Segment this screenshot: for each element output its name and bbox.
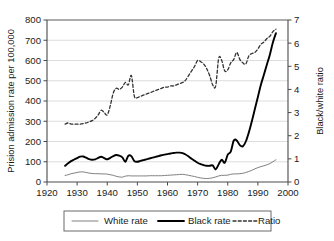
y-axis-right-tick-label: 2 (294, 130, 299, 141)
legend-label-black-rate: Black rate (188, 215, 231, 226)
chart-figure: 0100200300400500600700800 01234567 19201… (0, 0, 334, 241)
y-axis-left-tick-label: 700 (25, 35, 41, 46)
y-axis-left-tick-label: 500 (25, 75, 41, 86)
y-axis-left-tick-label: 100 (25, 156, 41, 167)
x-axis-tick-label: 1960 (157, 187, 178, 198)
y-axis-right-tick-label: 0 (294, 176, 299, 187)
x-axis-tick-label: 1940 (97, 187, 118, 198)
x-axis-tick-label: 1970 (187, 187, 208, 198)
x-axis-tick-label: 1950 (127, 187, 148, 198)
y-axis-right-tick-label: 5 (294, 61, 299, 72)
y-axis-left-tick-label: 800 (25, 14, 41, 25)
x-axis-tick-label: 1920 (36, 187, 57, 198)
legend-label-white-rate: White rate (104, 215, 148, 226)
y-axis-left-tick-label: 300 (25, 116, 41, 127)
y-axis-right-tick-label: 3 (294, 107, 299, 118)
x-axis-tick-label: 1980 (217, 187, 238, 198)
x-axis-tick-label: 1930 (66, 187, 87, 198)
y-axis-left-tick-label: 0 (36, 176, 41, 187)
y-axis-right-tick-label: 4 (294, 84, 300, 95)
legend-label-ratio: Ratio (258, 215, 280, 226)
prison-admission-rate-chart: 0100200300400500600700800 01234567 19201… (0, 0, 334, 241)
y-axis-left-tick-label: 400 (25, 95, 41, 106)
x-axis-tick-label: 1990 (247, 187, 268, 198)
y-axis-right-tick-label: 1 (294, 153, 299, 164)
y-axis-right-tick-label: 7 (294, 14, 299, 25)
chart-legend: White rateBlack rateRatio (64, 211, 280, 231)
y-axis-left-tick-label: 200 (25, 136, 41, 147)
x-axis-tick-label: 2000 (277, 187, 298, 198)
y-axis-right-label: Black/white ratio (315, 67, 325, 135)
chart-background (0, 0, 334, 241)
y-axis-left-ticks: 0100200300400500600700800 (25, 14, 47, 187)
y-axis-left-label: Prision admission rate per 100,000 (6, 29, 16, 173)
y-axis-left-tick-label: 600 (25, 55, 41, 66)
y-axis-right-tick-label: 6 (294, 38, 299, 49)
